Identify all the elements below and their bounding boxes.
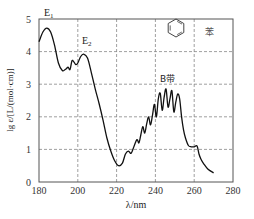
b-band-label: B带 [160,74,175,84]
y-tick-label: 3 [26,79,31,90]
e1-label: E1 [44,7,54,20]
grid-lines [39,19,233,182]
y-axis-label: lg ε/[L/(mol·cm)] [5,68,15,132]
plot-frame [39,19,233,182]
uv-spectrum-chart: 180200220240260280 012345 E1 E2 B带 苯 λ/n… [0,0,254,219]
absorption-curve [39,28,214,173]
y-axis-ticks: 012345 [26,14,31,188]
x-tick-label: 240 [148,185,163,196]
x-tick-label: 220 [109,185,124,196]
x-tick-label: 200 [70,185,85,196]
x-axis-ticks: 180200220240260280 [32,185,241,196]
e2-label: E2 [82,35,92,48]
benzene-ring-icon [168,19,184,37]
y-tick-label: 5 [26,14,31,25]
y-tick-label: 4 [26,46,31,57]
y-tick-label: 1 [26,144,31,155]
compound-label: 苯 [205,26,214,37]
x-axis-label: λ/nm [126,199,147,210]
y-tick-label: 2 [26,111,31,122]
x-tick-label: 180 [32,185,47,196]
x-tick-label: 260 [187,185,202,196]
y-tick-label: 0 [26,177,31,188]
x-tick-label: 280 [226,185,241,196]
